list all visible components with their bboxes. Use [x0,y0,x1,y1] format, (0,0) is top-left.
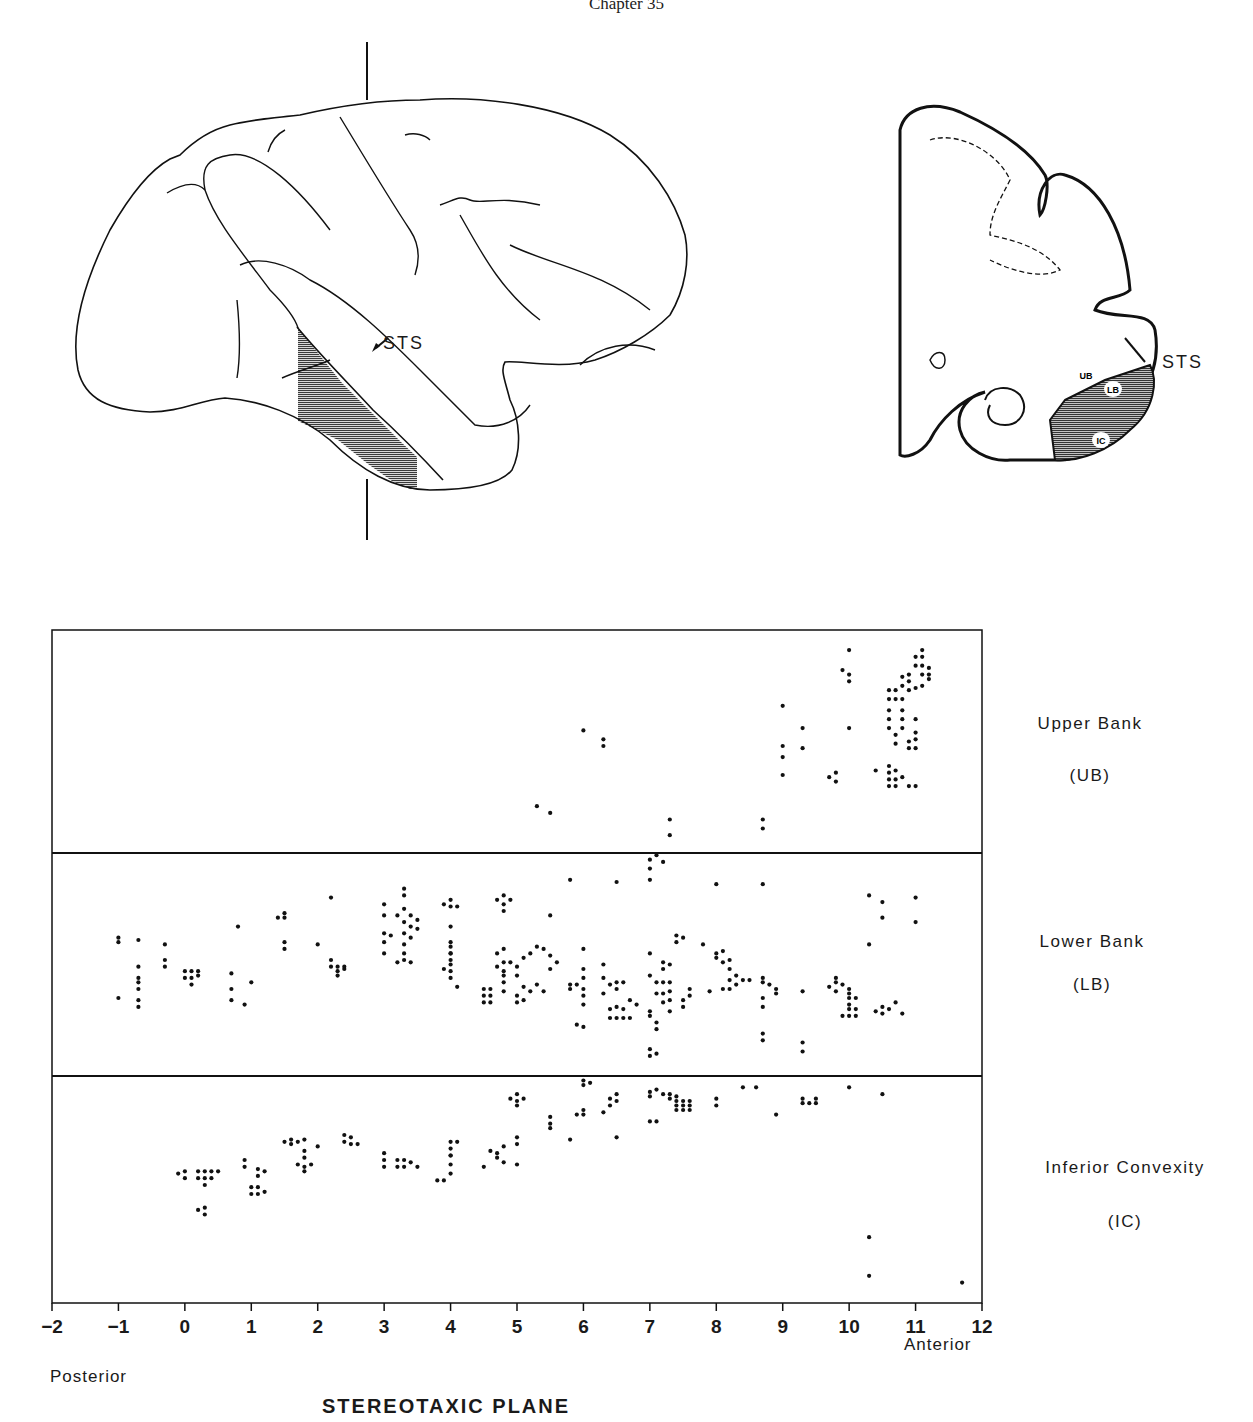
data-point [309,1162,313,1166]
data-point [336,974,340,978]
data-point [209,1169,213,1173]
data-point [648,1054,652,1058]
data-point [801,726,805,730]
data-point [249,1192,253,1196]
data-point [548,1126,552,1130]
data-point [761,882,765,886]
data-point [840,668,844,672]
data-point [608,1007,612,1011]
data-point [668,1009,672,1013]
data-point [708,989,712,993]
data-point [528,951,532,955]
data-point [914,746,918,750]
data-point [854,1007,858,1011]
data-point [688,987,692,991]
data-point [136,1005,140,1009]
data-point [621,1016,625,1020]
data-point [920,655,924,659]
data-point [402,958,406,962]
data-point [648,974,652,978]
data-point [615,1135,619,1139]
data-point [801,1040,805,1044]
x-tick-label: −1 [108,1316,130,1338]
data-point [621,980,625,984]
data-point [914,784,918,788]
data-point [674,1094,678,1098]
data-point [827,985,831,989]
data-point [329,958,333,962]
data-point [515,1000,519,1004]
data-point [914,737,918,741]
data-point [289,1138,293,1142]
data-point [455,904,459,908]
data-point [282,940,286,944]
data-point [840,1014,844,1018]
x-tick-label: 6 [578,1316,589,1338]
data-point [867,1235,871,1239]
data-point [409,1160,413,1164]
data-point [761,817,765,821]
data-point [575,1023,579,1027]
data-point [581,987,585,991]
data-point [515,1135,519,1139]
data-point [887,777,891,781]
data-point [302,1149,306,1153]
data-point [761,826,765,830]
data-point [887,697,891,701]
data-point [189,983,193,987]
data-point [136,987,140,991]
data-point [701,942,705,946]
x-tick-label: 4 [445,1316,456,1338]
data-point [900,675,904,679]
data-point [548,811,552,815]
data-point [502,893,506,897]
data-point [196,974,200,978]
data-point [914,717,918,721]
data-point [854,996,858,1000]
data-point [449,962,453,966]
data-point [402,893,406,897]
data-point [834,976,838,980]
data-point [688,1108,692,1112]
data-point [176,1172,180,1176]
data-point [302,1138,306,1142]
data-point [382,902,386,906]
data-point [203,1206,207,1210]
data-point [827,775,831,779]
data-point [807,1101,811,1105]
data-point [668,962,672,966]
data-point [568,983,572,987]
data-point [661,1092,665,1096]
data-point [289,1142,293,1146]
data-point [508,898,512,902]
data-point [920,673,924,677]
data-point [681,1103,685,1107]
data-point [874,768,878,772]
region-abbr-ub: (UB) [1010,766,1170,786]
data-point [502,989,506,993]
scatter-plot [0,0,1253,1422]
data-point [581,947,585,951]
data-point [900,697,904,701]
data-point [960,1281,964,1285]
data-point [296,1162,300,1166]
data-point [183,1169,187,1173]
data-point [449,951,453,955]
data-point [654,1027,658,1031]
data-point [229,971,233,975]
data-point [449,1153,453,1157]
data-point [661,991,665,995]
data-point [661,960,665,964]
data-point [189,976,193,980]
data-point [522,1097,526,1101]
data-point [867,942,871,946]
data-point [601,976,605,980]
data-point [648,951,652,955]
data-point [282,911,286,915]
data-point [894,1000,898,1004]
data-point [402,920,406,924]
data-point [449,969,453,973]
data-point [834,771,838,775]
data-point [382,1165,386,1169]
data-point [847,1085,851,1089]
